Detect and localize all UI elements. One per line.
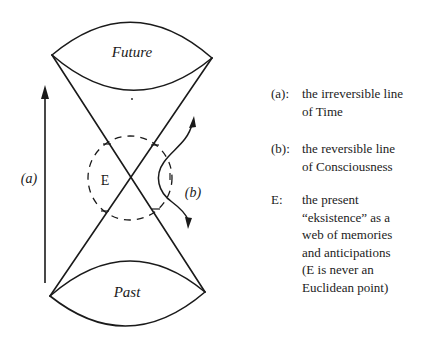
future-dot	[131, 98, 133, 100]
legend-line: the present	[302, 191, 422, 209]
legend-key-b: (b):	[271, 140, 302, 175]
legend-line: “eksistence” as a	[302, 209, 422, 227]
legend-line: the irreversible line	[302, 85, 422, 103]
legend-line: web of memories	[302, 226, 422, 244]
consciousness-curve-b	[158, 116, 196, 229]
axis-label-b: (b)	[185, 185, 202, 201]
legend-text-a: the irreversible line of Time	[302, 85, 422, 120]
past-label: Past	[113, 284, 142, 300]
present-label-e: E	[101, 173, 110, 188]
time-arrow-a	[41, 85, 49, 283]
arrow-up-icon	[41, 85, 49, 99]
legend-line: the reversible line	[302, 140, 422, 158]
legend-item-b: (b): the reversible line of Consciousnes…	[271, 140, 422, 175]
legend-line: of Consciousness	[302, 158, 422, 176]
legend-line: (E is never an	[302, 261, 422, 279]
future-cone-bottom-arc	[52, 55, 212, 90]
legend-line: and anticipations	[302, 244, 422, 262]
legend-key-a: (a):	[271, 85, 302, 120]
future-label: Future	[111, 44, 153, 60]
legend-line: of Time	[302, 103, 422, 121]
legend-line: Euclidean point)	[302, 279, 422, 297]
arrow-down-icon	[185, 217, 192, 229]
legend-key-e: E:	[271, 191, 302, 296]
axis-label-a: (a)	[21, 171, 38, 187]
arrow-up-icon	[189, 116, 196, 128]
legend-item-a: (a): the irreversible line of Time	[271, 85, 422, 120]
legend-text-b: the reversible line of Consciousness	[302, 140, 422, 175]
legend-item-e: E: the present “eksistence” as a web of …	[271, 191, 422, 296]
legend-text-e: the present “eksistence” as a web of mem…	[302, 191, 422, 296]
